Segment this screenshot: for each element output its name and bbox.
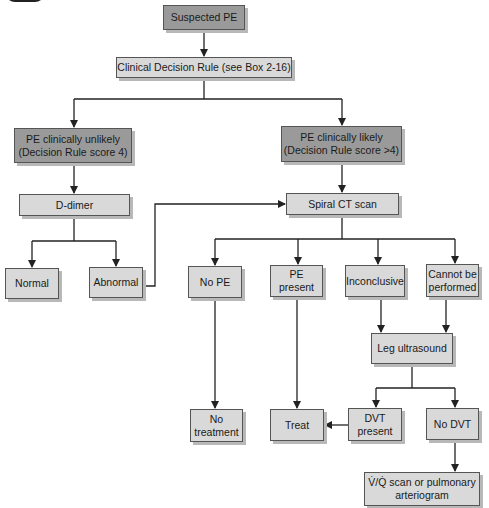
node-inconclusive: Inconclusive (345, 265, 405, 297)
node-label-line1: DVT (365, 412, 386, 425)
node-label: Abnormal (94, 276, 139, 289)
node-label-line1: PE clinically likely (300, 131, 382, 144)
node-label-line1: Cannot be (428, 268, 476, 281)
node-label-line2: treatment (194, 426, 238, 439)
node-label-line2: present (279, 281, 314, 294)
node-label-line1: PE clinically unlikely (26, 133, 120, 146)
node-normal: Normal (5, 268, 59, 299)
node-clinical-decision-rule: Clinical Decision Rule (see Box 2-16) (116, 57, 292, 78)
node-label: Spiral CT scan (308, 198, 377, 211)
node-vq-scan-or-arteriogram: V̇/Q̇ scan or pulmonary arteriogram (364, 472, 480, 506)
node-label: D-dimer (56, 199, 93, 212)
node-label: Clinical Decision Rule (see Box 2-16) (117, 61, 290, 74)
node-no-treatment: No treatment (190, 409, 243, 442)
node-label-line1: PE (289, 268, 303, 281)
node-label: Inconclusive (346, 275, 404, 288)
node-label-line2: (Decision Rule score >4) (284, 144, 399, 157)
node-suspected-pe: Suspected PE (163, 5, 245, 30)
node-treat: Treat (270, 409, 324, 441)
node-cannot-be-performed: Cannot be performed (426, 264, 479, 297)
node-label-line1: V̇/Q̇ scan or pulmonary (368, 476, 475, 489)
node-label-line1: No (210, 413, 223, 426)
node-label: Suspected PE (171, 11, 238, 24)
node-label-line2: performed (429, 281, 477, 294)
node-label: Treat (285, 419, 309, 432)
node-leg-ultrasound: Leg ultrasound (371, 333, 453, 364)
node-label: No DVT (434, 418, 471, 431)
node-dvt-present: DVT present (348, 408, 402, 441)
node-d-dimer: D-dimer (19, 194, 130, 216)
node-label-line2: arteriogram (395, 489, 449, 502)
node-label: Leg ultrasound (377, 342, 446, 355)
node-pe-present: PE present (270, 265, 323, 297)
node-label: Normal (15, 277, 49, 290)
flowchart: Suspected PE Clinical Decision Rule (see… (0, 0, 489, 508)
node-pe-clinically-unlikely: PE clinically unlikely (Decision Rule sc… (14, 128, 132, 163)
node-label: No PE (200, 276, 230, 289)
node-no-dvt: No DVT (426, 408, 479, 440)
node-label-line2: (Decision Rule score 4) (18, 146, 127, 159)
node-abnormal: Abnormal (89, 267, 143, 298)
node-pe-clinically-likely: PE clinically likely (Decision Rule scor… (281, 126, 402, 162)
node-label-line2: present (357, 425, 392, 438)
node-spiral-ct-scan: Spiral CT scan (286, 193, 399, 215)
node-no-pe: No PE (188, 266, 242, 298)
